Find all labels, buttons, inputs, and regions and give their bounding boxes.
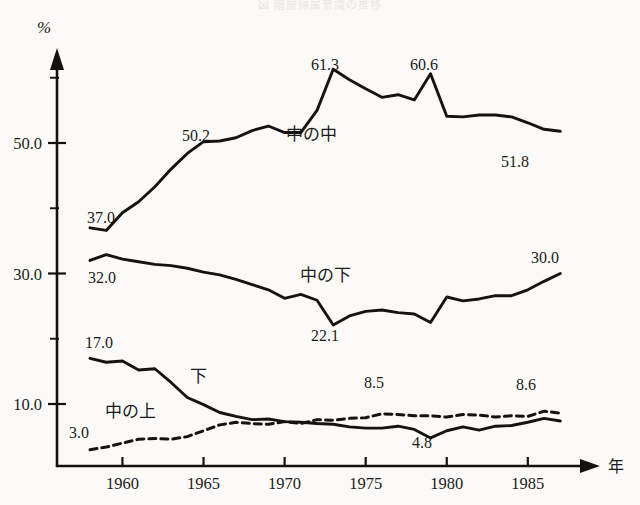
line-chart-canvas: %年10.030.050.0196019651970197519801985中の… — [0, 0, 640, 505]
value-annotation: 8.5 — [364, 374, 384, 391]
x-tick-label: 1985 — [511, 474, 544, 493]
value-annotation: 60.6 — [410, 56, 438, 73]
value-annotation: 30.0 — [531, 249, 559, 266]
value-annotation: 4.8 — [412, 434, 432, 451]
series-label-中の下: 中の下 — [300, 265, 351, 285]
x-tick-label: 1980 — [430, 474, 463, 493]
x-axis-name-label: 年 — [608, 457, 624, 476]
series-line-中の上 — [90, 411, 560, 450]
x-tick-label: 1965 — [187, 474, 220, 493]
series-label-中の上: 中の上 — [105, 401, 156, 421]
value-annotation: 3.0 — [69, 424, 89, 441]
x-tick-label: 1960 — [106, 474, 139, 493]
x-tick-label: 1975 — [349, 474, 382, 493]
series-line-下 — [90, 358, 560, 438]
value-annotation: 61.3 — [311, 56, 339, 73]
y-tick-label: 30.0 — [13, 265, 42, 284]
value-annotation: 22.1 — [311, 327, 339, 344]
value-annotation: 32.0 — [88, 269, 116, 286]
value-annotation: 50.2 — [182, 127, 210, 144]
chart-figure: 図 階層帰属意識の推移 %年10.030.050.019601965197019… — [0, 0, 640, 505]
series-label-下: 下 — [190, 366, 207, 386]
value-annotation: 17.0 — [85, 334, 113, 351]
y-axis-arrow-icon — [50, 48, 64, 70]
y-axis-unit-label: % — [37, 18, 51, 37]
y-tick-label: 50.0 — [13, 134, 42, 153]
y-tick-label: 10.0 — [13, 395, 42, 414]
value-annotation: 8.6 — [516, 376, 536, 393]
series-label-中の中: 中の中 — [286, 124, 337, 144]
value-annotation: 51.8 — [501, 153, 529, 170]
x-axis-arrow-icon — [580, 459, 600, 473]
value-annotation: 37.0 — [87, 209, 115, 226]
figure-title: 図 階層帰属意識の推移 — [0, 0, 640, 12]
series-line-中の中 — [90, 69, 560, 230]
x-tick-label: 1970 — [268, 474, 301, 493]
